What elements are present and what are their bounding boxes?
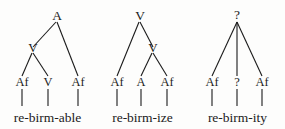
tree-ize-root-node: V — [135, 9, 145, 22]
tree-ize-word: re-birm-ize — [95, 110, 190, 125]
tree-diagram-able: A V Af V Af re-birm-able — [0, 0, 95, 129]
tree-ize-leaf-3: Af — [160, 76, 173, 89]
tree-diagram-ize: V V Af A Af re-birm-ize — [95, 0, 190, 129]
tree-able-internal-node: V — [28, 41, 37, 54]
tree-able-leaf-1: Af — [15, 76, 28, 89]
tree-ity-root-node: ? — [234, 8, 240, 21]
tree-ize-leaf-2: A — [136, 76, 145, 89]
tree-ity-leaf-3: Af — [255, 76, 268, 89]
tree-ity-leaf-2: ? — [234, 76, 240, 89]
tree-ize-leaf-1: Af — [110, 76, 123, 89]
tree-able-root-node: A — [52, 9, 62, 22]
tree-ity-word: re-birm-ity — [190, 110, 285, 125]
tree-diagram-ity: ? Af ? Af re-birm-ity — [190, 0, 285, 129]
morphology-tree-figure: A V Af V Af re-birm-able V V Af A Af re-… — [0, 0, 285, 129]
tree-ize-internal-node: V — [148, 41, 157, 54]
tree-able-leaf-2: V — [43, 76, 52, 89]
tree-ity-leaf-1: Af — [205, 76, 218, 89]
tree-able-word: re-birm-able — [0, 110, 95, 125]
tree-able-leaf-3: Af — [71, 76, 84, 89]
